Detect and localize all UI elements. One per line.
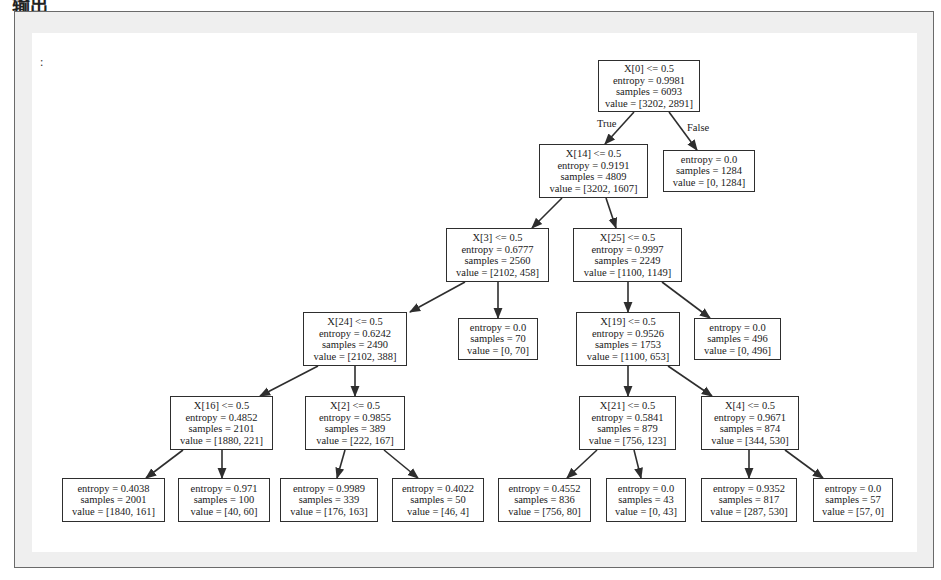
node-entropy: entropy = 0.4552 (508, 483, 580, 495)
tree-node-x25: X[25] <= 0.5 entropy = 0.9997 samples = … (573, 228, 682, 282)
node-samples: samples = 50 (410, 494, 466, 506)
tree-canvas (32, 33, 917, 552)
tree-leaf-43: entropy = 0.0 samples = 43 value = [0, 4… (606, 478, 686, 522)
tree-leaf-339: entropy = 0.9989 samples = 339 value = [… (280, 478, 378, 522)
node-samples: samples = 2490 (322, 339, 388, 351)
node-entropy: entropy = 0.9191 (557, 160, 629, 172)
node-value: value = [3202, 1607] (549, 183, 637, 195)
edge-label-false: False (687, 122, 709, 133)
node-samples: samples = 879 (597, 423, 658, 435)
node-samples: samples = 1753 (595, 339, 661, 351)
node-split: X[21] <= 0.5 (600, 400, 655, 412)
node-value: value = [40, 60] (190, 506, 257, 518)
node-entropy: entropy = 0.0 (825, 483, 881, 495)
node-value: value = [176, 163] (290, 506, 368, 518)
tree-node-x4: X[4] <= 0.5 entropy = 0.9671 samples = 8… (701, 396, 799, 450)
node-split: X[19] <= 0.5 (600, 316, 655, 328)
node-value: value = [1100, 653] (587, 351, 670, 363)
node-value: value = [287, 530] (710, 506, 788, 518)
node-samples: samples = 2101 (189, 423, 255, 435)
node-samples: samples = 1284 (676, 165, 742, 177)
node-value: value = [0, 496] (704, 345, 771, 357)
node-entropy: entropy = 0.6777 (461, 244, 533, 256)
node-entropy: entropy = 0.0 (681, 154, 737, 166)
node-entropy: entropy = 0.0 (618, 483, 674, 495)
node-entropy: entropy = 0.5841 (591, 412, 663, 424)
node-samples: samples = 817 (719, 494, 780, 506)
node-split: X[16] <= 0.5 (194, 400, 249, 412)
tree-leaf-836: entropy = 0.4552 samples = 836 value = [… (498, 478, 591, 522)
tree-leaf-817: entropy = 0.9352 samples = 817 value = [… (701, 478, 797, 522)
node-value: value = [344, 530] (711, 435, 789, 447)
node-value: value = [2102, 458] (456, 267, 539, 279)
node-samples: samples = 2560 (465, 255, 531, 267)
tree-leaf-2001: entropy = 0.4038 samples = 2001 value = … (62, 478, 165, 522)
node-samples: samples = 2001 (81, 494, 147, 506)
tree-leaf-50: entropy = 0.4022 samples = 50 value = [4… (392, 478, 484, 522)
node-samples: samples = 389 (325, 423, 386, 435)
node-entropy: entropy = 0.971 (191, 483, 258, 495)
node-split: X[4] <= 0.5 (725, 400, 775, 412)
tree-node-root: X[0] <= 0.5 entropy = 0.9981 samples = 6… (598, 60, 700, 112)
node-entropy: entropy = 0.6242 (319, 328, 391, 340)
node-entropy: entropy = 0.4038 (77, 483, 149, 495)
node-value: value = [2102, 388] (314, 351, 397, 363)
prompt-marker: : (40, 56, 43, 68)
node-samples: samples = 57 (825, 494, 881, 506)
tree-node-x21: X[21] <= 0.5 entropy = 0.5841 samples = … (579, 396, 676, 450)
node-split: X[0] <= 0.5 (624, 63, 674, 75)
node-samples: samples = 339 (299, 494, 360, 506)
node-split: X[25] <= 0.5 (600, 232, 655, 244)
node-samples: samples = 4809 (561, 171, 627, 183)
node-value: value = [222, 167] (316, 435, 394, 447)
node-samples: samples = 70 (470, 333, 526, 345)
node-entropy: entropy = 0.9981 (613, 75, 685, 87)
node-value: value = [756, 123] (589, 435, 667, 447)
node-entropy: entropy = 0.9671 (714, 412, 786, 424)
node-value: value = [46, 4] (407, 506, 469, 518)
node-split: X[2] <= 0.5 (330, 400, 380, 412)
node-value: value = [1840, 161] (72, 506, 155, 518)
node-samples: samples = 496 (707, 333, 768, 345)
node-entropy: entropy = 0.4022 (402, 483, 474, 495)
node-samples: samples = 836 (514, 494, 575, 506)
node-samples: samples = 2249 (595, 255, 661, 267)
node-entropy: entropy = 0.9855 (319, 412, 391, 424)
tree-node-x16: X[16] <= 0.5 entropy = 0.4852 samples = … (170, 396, 273, 450)
node-value: value = [1880, 221] (180, 435, 263, 447)
node-split: X[14] <= 0.5 (566, 148, 621, 160)
node-samples: samples = 6093 (616, 86, 682, 98)
node-entropy: entropy = 0.9526 (592, 328, 664, 340)
tree-leaf-496: entropy = 0.0 samples = 496 value = [0, … (694, 318, 781, 360)
node-split: X[3] <= 0.5 (472, 232, 522, 244)
tree-node-x14: X[14] <= 0.5 entropy = 0.9191 samples = … (539, 144, 648, 198)
node-split: X[24] <= 0.5 (327, 316, 382, 328)
node-samples: samples = 874 (720, 423, 781, 435)
node-entropy: entropy = 0.9997 (591, 244, 663, 256)
node-samples: samples = 43 (618, 494, 674, 506)
tree-node-x19: X[19] <= 0.5 entropy = 0.9526 samples = … (576, 312, 680, 366)
node-value: value = [57, 0] (822, 506, 884, 518)
node-entropy: entropy = 0.9989 (293, 483, 365, 495)
tree-node-x2: X[2] <= 0.5 entropy = 0.9855 samples = 3… (305, 396, 405, 450)
tree-leaf-57: entropy = 0.0 samples = 57 value = [57, … (813, 478, 893, 522)
node-value: value = [3202, 2891] (605, 98, 693, 110)
node-entropy: entropy = 0.4852 (185, 412, 257, 424)
tree-node-x24: X[24] <= 0.5 entropy = 0.6242 samples = … (303, 312, 407, 366)
node-value: value = [756, 80] (508, 506, 580, 518)
node-value: value = [1100, 1149] (584, 267, 671, 279)
node-entropy: entropy = 0.9352 (713, 483, 785, 495)
tree-leaf-70: entropy = 0.0 samples = 70 value = [0, 7… (458, 318, 538, 360)
node-value: value = [0, 43] (615, 506, 677, 518)
node-value: value = [0, 70] (467, 345, 529, 357)
node-entropy: entropy = 0.0 (470, 322, 526, 334)
edge-label-true: True (597, 118, 616, 129)
node-entropy: entropy = 0.0 (709, 322, 765, 334)
tree-leaf-1284: entropy = 0.0 samples = 1284 value = [0,… (663, 150, 755, 192)
node-samples: samples = 100 (194, 494, 255, 506)
tree-node-x3: X[3] <= 0.5 entropy = 0.6777 samples = 2… (446, 228, 549, 282)
node-value: value = [0, 1284] (673, 177, 745, 189)
tree-leaf-100: entropy = 0.971 samples = 100 value = [4… (178, 478, 270, 522)
